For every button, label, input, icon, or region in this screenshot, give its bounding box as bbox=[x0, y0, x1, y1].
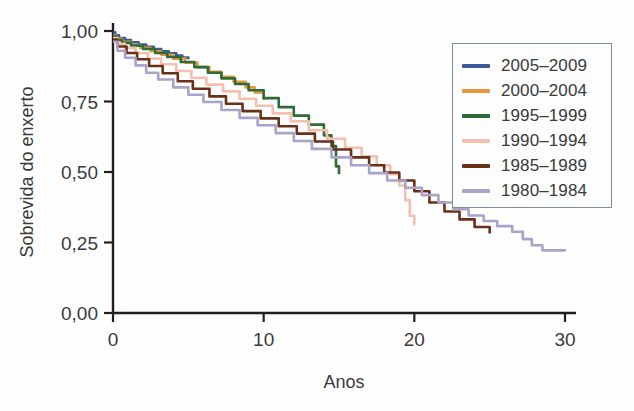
y-tick-label-group: 0,000,250,500,751,00 bbox=[61, 21, 98, 324]
x-tick-label: 20 bbox=[404, 329, 425, 350]
legend-item-label: 1980–1984 bbox=[501, 182, 587, 199]
y-tick-label: 0,50 bbox=[61, 162, 98, 183]
x-tick-label-group: 0102030 bbox=[108, 329, 576, 350]
legend-item: 2005–2009 bbox=[462, 53, 601, 78]
x-tick-label: 10 bbox=[253, 329, 274, 350]
legend-item-label: 2005–2009 bbox=[501, 57, 587, 74]
legend-color-swatch bbox=[462, 64, 490, 68]
legend-color-swatch bbox=[462, 89, 490, 93]
legend-item-label: 1985–1989 bbox=[501, 157, 587, 174]
legend-color-swatch bbox=[462, 164, 490, 168]
legend-item: 1995–1999 bbox=[462, 103, 601, 128]
legend-item: 1990–1994 bbox=[462, 128, 601, 153]
x-tick-label: 30 bbox=[554, 329, 575, 350]
y-axis-title: Sobrevida do enxerto bbox=[17, 86, 37, 257]
y-tick-label: 0,75 bbox=[61, 92, 98, 113]
legend-color-swatch bbox=[462, 114, 490, 118]
legend-item-label: 1995–1999 bbox=[501, 107, 587, 124]
y-tick-label: 1,00 bbox=[61, 21, 98, 42]
x-axis-title: Anos bbox=[323, 372, 364, 392]
legend-color-swatch bbox=[462, 139, 490, 143]
legend-item-label: 1990–1994 bbox=[501, 132, 587, 149]
y-tick-label: 0,00 bbox=[61, 303, 98, 324]
survival-curve bbox=[113, 39, 490, 233]
legend: 2005–20092000–20041995–19991990–19941985… bbox=[452, 43, 612, 208]
legend-color-swatch bbox=[462, 189, 490, 193]
y-tick-label: 0,25 bbox=[61, 233, 98, 254]
legend-item-label: 2000–2004 bbox=[501, 82, 587, 99]
survival-chart-figure: 0,000,250,500,751,00 0102030 Anos Sobrev… bbox=[0, 0, 634, 411]
x-tick-label: 0 bbox=[108, 329, 119, 350]
legend-item: 1980–1984 bbox=[462, 178, 601, 203]
legend-item: 2000–2004 bbox=[462, 78, 601, 103]
legend-item: 1985–1989 bbox=[462, 153, 601, 178]
